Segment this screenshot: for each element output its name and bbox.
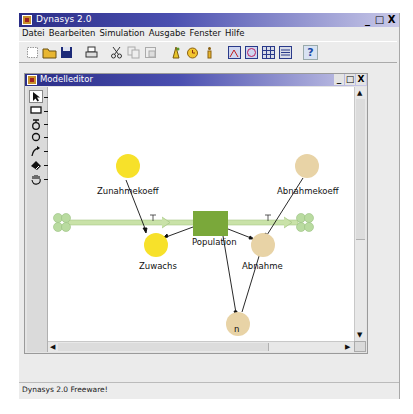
scroll-down-arrow-icon[interactable]: ▼ (357, 331, 362, 339)
editor-close-button[interactable]: X (356, 74, 366, 85)
connector-arrow-tool[interactable] (29, 145, 43, 158)
vertical-scrollbar[interactable]: ▲ ▼ (354, 87, 366, 341)
clock-icon[interactable] (185, 45, 200, 60)
tool-palette: 1 2 3 4 5 6 7 (27, 87, 48, 352)
eraser-tool[interactable] (29, 159, 43, 172)
flow-valve-tool[interactable] (29, 118, 43, 131)
app-logo-icon (22, 15, 32, 25)
converter-circle-tool[interactable] (29, 131, 43, 144)
model-canvas[interactable]: Zunahmekoeff Abnahmekoeff Population Zuw… (48, 87, 354, 341)
run-simulation-icon[interactable] (168, 45, 183, 60)
editor-maximize-button[interactable]: □ (345, 74, 355, 85)
print-icon[interactable] (84, 45, 99, 60)
modelleditor-titlebar[interactable]: Modelleditor _ □ X (25, 74, 367, 86)
scroll-right-arrow-icon[interactable]: ▶ (345, 343, 350, 351)
select-arrow-tool[interactable] (29, 90, 43, 103)
editor-minimize-button[interactable]: _ (334, 74, 344, 85)
help-icon[interactable]: ? (303, 45, 318, 60)
modelleditor-window: Modelleditor _ □ X 1 2 3 4 5 (24, 73, 368, 354)
converter-zunahmekoeff[interactable] (116, 154, 140, 178)
scrollbar-corner (354, 341, 366, 352)
scroll-left-arrow-icon[interactable]: ◀ (50, 343, 55, 351)
paste-icon[interactable] (143, 45, 158, 60)
flow-pipe-arrow (284, 217, 292, 228)
menu-simulation[interactable]: Simulation (99, 27, 144, 40)
dynasys-main-window: Dynasys 2.0 _ □ X Datei Bearbeiten Simul… (19, 13, 400, 399)
label-zunahmekoeff: Zunahmekoeff (97, 186, 159, 196)
label-abnahme: Abnahme (242, 261, 283, 271)
menubar: Datei Bearbeiten Simulation Ausgabe Fens… (19, 27, 244, 40)
horizontal-scroll-thumb[interactable] (58, 343, 269, 351)
editor-logo-icon (27, 75, 37, 85)
toolbar: ? (19, 41, 397, 63)
converter-abnahmekoeff[interactable] (295, 154, 319, 178)
save-disk-icon[interactable] (59, 45, 74, 60)
vertical-scroll-thumb[interactable] (356, 99, 365, 240)
menu-hilfe[interactable]: Hilfe (225, 27, 244, 40)
scroll-up-arrow-icon[interactable]: ▲ (357, 89, 362, 97)
mdi-desktop: Modelleditor _ □ X 1 2 3 4 5 (19, 64, 399, 382)
label-n: n (234, 324, 239, 334)
label-population: Population (192, 237, 237, 247)
cut-icon[interactable] (109, 45, 124, 60)
flow-zuwachs[interactable] (144, 233, 168, 257)
editor-title: Modelleditor (40, 74, 93, 84)
menu-ausgabe[interactable]: Ausgabe (149, 27, 186, 40)
menu-fenster[interactable]: Fenster (190, 27, 222, 40)
flow-pipe-arrow (162, 217, 170, 228)
minimize-button[interactable]: _ (362, 14, 373, 25)
status-bar: Dynasys 2.0 Freeware! (19, 382, 399, 395)
menu-bearbeiten[interactable]: Bearbeiten (49, 27, 96, 40)
label-zuwachs: Zuwachs (139, 261, 177, 271)
copy-icon[interactable] (126, 45, 141, 60)
info-icon[interactable] (202, 45, 217, 60)
table-icon[interactable] (261, 45, 276, 60)
list-icon[interactable] (278, 45, 293, 60)
menu-datei[interactable]: Datei (22, 27, 45, 40)
time-graph-icon[interactable] (227, 45, 242, 60)
new-icon[interactable] (25, 45, 40, 60)
horizontal-scrollbar[interactable]: ◀ ▶ (48, 341, 354, 352)
phase-graph-icon[interactable] (244, 45, 259, 60)
window-title: Dynasys 2.0 (36, 14, 91, 24)
close-button[interactable]: X (386, 14, 397, 25)
flow-pipe (68, 220, 298, 225)
open-folder-icon[interactable] (42, 45, 57, 60)
maximize-button[interactable]: □ (374, 14, 385, 25)
flow-abnahme[interactable] (251, 233, 275, 257)
sink-cloud-icon (297, 214, 314, 232)
label-abnahmekoeff: Abnahmekoeff (277, 186, 339, 196)
hand-pan-tool[interactable] (29, 173, 43, 186)
stock-rectangle-tool[interactable] (29, 105, 43, 118)
main-titlebar[interactable]: Dynasys 2.0 _ □ X (19, 13, 399, 27)
stock-population[interactable] (193, 211, 228, 236)
